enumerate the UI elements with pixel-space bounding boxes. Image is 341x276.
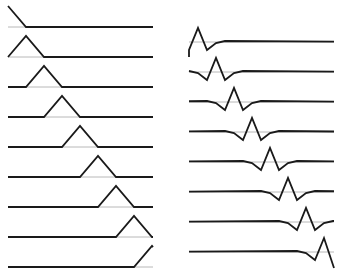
hat-curve (8, 216, 153, 237)
hat-curve (8, 36, 153, 57)
wavelet-function-row (189, 238, 334, 268)
hat-curve (8, 156, 153, 177)
hat-function-row (8, 6, 153, 27)
hat-curve (8, 96, 153, 117)
hat-function-row (8, 66, 153, 87)
hat-curve (8, 66, 153, 87)
wavelet-function-row (189, 118, 334, 140)
hat-function-row (8, 246, 153, 267)
wavelet-curve (189, 238, 334, 268)
hat-curve (8, 246, 153, 267)
wavelet-function-row (189, 178, 334, 200)
wavelet-curve (189, 88, 334, 110)
hat-function-row (8, 36, 153, 57)
hat-function-row (8, 216, 153, 237)
wavelet-curve (189, 118, 334, 140)
hat-function-row (8, 96, 153, 117)
wavelet-function-row (189, 88, 334, 110)
wavelet-function-row (189, 208, 334, 230)
wavelet-function-row (189, 28, 334, 57)
wavelet-curve (189, 148, 334, 170)
wavelet-functions-column (189, 28, 334, 268)
hat-curve (8, 186, 153, 207)
hat-curve (8, 6, 153, 27)
wavelet-curve (189, 58, 334, 80)
wavelet-curve (189, 208, 334, 230)
hat-functions-column (8, 6, 153, 267)
hat-function-row (8, 126, 153, 147)
basis-functions-diagram (0, 0, 341, 276)
wavelet-curve (189, 178, 334, 200)
wavelet-function-row (189, 58, 334, 80)
hat-function-row (8, 156, 153, 177)
wavelet-function-row (189, 148, 334, 170)
hat-function-row (8, 186, 153, 207)
hat-curve (8, 126, 153, 147)
